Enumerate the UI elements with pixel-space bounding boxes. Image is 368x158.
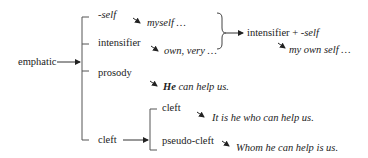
arrow-combined-example [278, 43, 285, 48]
prosody-example: He can help us. [163, 82, 229, 93]
cleft-label: cleft [98, 135, 117, 146]
prosody-example-stress: He [163, 81, 176, 92]
self-example: myself … [147, 18, 186, 29]
pseudo-cleft-example: Whom he can help is us. [236, 143, 338, 154]
intensifier-label: intensifier [98, 38, 141, 49]
arrow-cleft-example [197, 112, 204, 117]
root-label: emphatic [18, 57, 56, 68]
combined-example: my own self … [289, 45, 351, 56]
sub-cleft-example: It is he who can help us. [212, 113, 314, 124]
arrow-intensifier-example [151, 46, 158, 51]
sub-cleft-label: cleft [162, 103, 181, 114]
curly-brace [217, 13, 226, 49]
arrow-self-example [133, 18, 140, 23]
prosody-label: prosody [98, 68, 132, 79]
arrow-prosody-example [150, 81, 157, 86]
combined-label-suffix: -self [301, 27, 319, 38]
prosody-example-rest: can help us. [176, 81, 229, 92]
pseudo-cleft-label: pseudo-cleft [162, 136, 214, 147]
arrow-pseudo-cleft-example [222, 141, 229, 146]
self-label: -self [98, 10, 116, 21]
combined-label-main: intensifier + [247, 27, 301, 38]
combined-label: intensifier + -self [247, 28, 319, 39]
intensifier-example: own, very … [164, 46, 217, 57]
